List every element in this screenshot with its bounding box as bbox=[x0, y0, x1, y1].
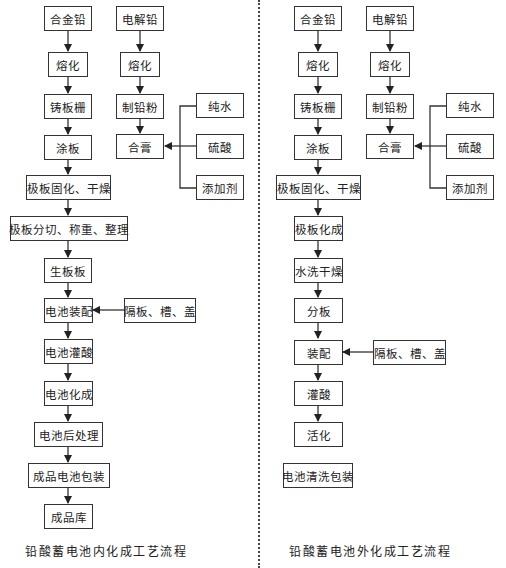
box-additive: 添加剂 bbox=[196, 175, 244, 200]
box-activation: 活化 bbox=[294, 422, 343, 447]
box-plate-formation: 极板化成 bbox=[294, 216, 343, 241]
box-electrolytic-lead: 电解铅 bbox=[116, 6, 164, 31]
box-paste-plate: 涂板 bbox=[44, 135, 92, 160]
box-melt-alloy: 熔化 bbox=[48, 52, 88, 77]
right-caption: 铅酸蓄电池外化成工艺流程 bbox=[289, 542, 451, 559]
box-melt-electrolytic: 熔化 bbox=[370, 52, 410, 77]
box-separator-case-lid: 隔板、槽、盖 bbox=[124, 298, 196, 323]
box-clean-pack: 电池清洗包装 bbox=[283, 463, 353, 488]
box-paste-plate: 涂板 bbox=[294, 135, 342, 160]
left-caption: 铅酸蓄电池内化成工艺流程 bbox=[25, 542, 187, 559]
box-warehouse: 成品库 bbox=[44, 504, 93, 529]
box-cast-grid: 铸板栅 bbox=[44, 94, 92, 119]
box-electrolytic-lead: 电解铅 bbox=[366, 6, 414, 31]
box-melt-alloy: 熔化 bbox=[298, 52, 338, 77]
box-cure-dry: 极板固化、干燥 bbox=[26, 175, 111, 200]
box-split-plate: 分板 bbox=[294, 298, 343, 323]
panel-divider bbox=[258, 0, 260, 568]
box-sulfuric-acid: 硫酸 bbox=[446, 134, 494, 159]
box-cure-dry: 极板固化、干燥 bbox=[276, 175, 361, 200]
box-lead-powder: 制铅粉 bbox=[116, 94, 164, 119]
box-cast-grid: 铸板栅 bbox=[294, 94, 342, 119]
box-pure-water: 纯水 bbox=[446, 93, 494, 118]
box-melt-electrolytic: 熔化 bbox=[120, 52, 160, 77]
box-mix-paste: 合膏 bbox=[116, 134, 164, 159]
box-additive: 添加剂 bbox=[446, 175, 494, 200]
box-assembly: 装配 bbox=[294, 340, 343, 365]
box-sulfuric-acid: 硫酸 bbox=[196, 134, 244, 159]
box-separator-case-lid: 隔板、槽、盖 bbox=[373, 340, 446, 365]
box-post-treatment: 电池后处理 bbox=[34, 422, 103, 447]
box-acid-filling: 灌酸 bbox=[294, 381, 343, 406]
box-alloy-lead: 合金铅 bbox=[44, 6, 92, 31]
box-mix-paste: 合膏 bbox=[366, 134, 414, 159]
box-wash-dry: 水洗干燥 bbox=[294, 258, 343, 283]
box-formation: 电池化成 bbox=[44, 381, 93, 406]
box-alloy-lead: 合金铅 bbox=[294, 6, 342, 31]
box-pure-water: 纯水 bbox=[196, 93, 244, 118]
box-acid-filling: 电池灌酸 bbox=[44, 339, 93, 364]
box-battery-assembly: 电池装配 bbox=[44, 298, 93, 323]
box-packaging: 成品电池包装 bbox=[28, 463, 110, 488]
box-lead-powder: 制铅粉 bbox=[366, 94, 414, 119]
box-raw-plate: 生板板 bbox=[44, 258, 92, 283]
box-cut-weigh-sort: 极板分切、称重、整理 bbox=[10, 216, 128, 241]
